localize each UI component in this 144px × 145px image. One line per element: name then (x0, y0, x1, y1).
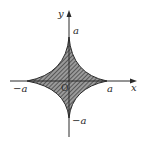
origin-label: O (61, 83, 68, 93)
tick-label-y-negative: −a (72, 115, 86, 126)
tick-label-y-positive: a (73, 25, 79, 36)
y-axis-arrow-icon (67, 10, 72, 17)
x-axis-label: x (131, 82, 137, 93)
astroid-region (27, 37, 107, 118)
astroid-diagram: y x O a −a a −a (0, 0, 144, 145)
tick-label-x-positive: a (107, 83, 113, 94)
y-axis-label: y (57, 8, 64, 19)
tick-label-x-negative: −a (13, 83, 27, 94)
